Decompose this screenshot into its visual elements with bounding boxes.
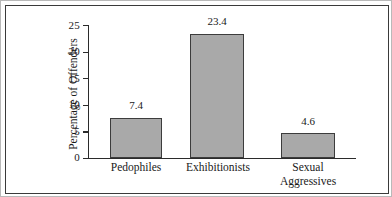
y-axis-tick-label-10: 10 xyxy=(40,99,80,110)
y-axis-tick-15 xyxy=(83,78,88,79)
bar-exhibitionists xyxy=(190,34,244,158)
bar-category-pedophiles: Pedophiles xyxy=(92,161,180,175)
bar-category-exhibitionists: Exhibitionists xyxy=(173,161,263,175)
y-axis-tick-10 xyxy=(83,105,88,106)
y-axis-tick-label-0: 0 xyxy=(40,152,80,163)
y-axis-tick-20 xyxy=(83,52,88,53)
y-axis-tick-25 xyxy=(83,25,88,26)
bar-sexual-aggressives xyxy=(281,133,335,157)
bar-pedophiles xyxy=(110,118,162,157)
y-axis-tick-label-25: 25 xyxy=(40,20,80,31)
x-axis-line xyxy=(88,158,356,159)
bar-value-pedophiles: 7.4 xyxy=(110,100,162,111)
y-axis-tick-5 xyxy=(83,131,88,132)
y-axis-title: Percentage of Offenders xyxy=(67,14,79,174)
bar-chart-plot-area: Percentage of Offenders 25 20 15 10 5 0 … xyxy=(0,0,392,197)
bar-value-sexual-aggressives: 4.6 xyxy=(281,116,335,127)
y-axis-tick-label-20: 20 xyxy=(40,46,80,57)
y-axis-tick-label-15: 15 xyxy=(40,73,80,84)
y-axis-tick-label-5: 5 xyxy=(40,126,80,137)
bar-value-exhibitionists: 23.4 xyxy=(190,16,244,27)
y-axis-line xyxy=(88,25,89,159)
bar-category-sexual-aggressives: Sexual Aggressives xyxy=(263,161,353,188)
y-axis-tick-0 xyxy=(83,158,88,159)
